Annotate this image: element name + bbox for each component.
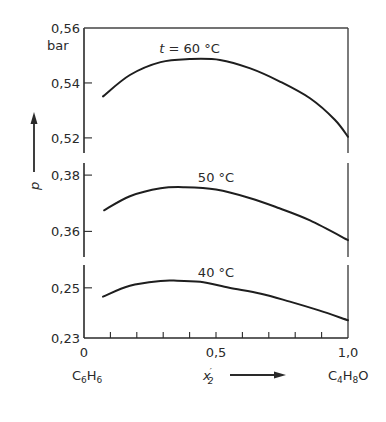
x-tick-label: 1,0 bbox=[338, 345, 359, 360]
y-tick-label-60C: 0,52 bbox=[51, 131, 80, 146]
x-axis-label: x′2 bbox=[202, 367, 286, 386]
x-right-component-label: C4H8O bbox=[328, 368, 369, 385]
series-label-60C: t = 60 °C bbox=[159, 41, 220, 56]
y-axis-title: p bbox=[27, 182, 42, 191]
series-label-50C: 50 °C bbox=[198, 170, 234, 185]
y-tick-label-50C: 0,38 bbox=[51, 168, 80, 183]
curve-60C bbox=[103, 59, 348, 137]
y-tick-label-50C: 0,36 bbox=[51, 224, 80, 239]
y-axis-unit: bar bbox=[47, 38, 69, 53]
y-tick-label-40C: 0,25 bbox=[51, 281, 80, 296]
series-label-value: = 60 °C bbox=[164, 41, 219, 56]
x-left-component-label: C6H6 bbox=[72, 368, 103, 385]
x-tick-label: 0,5 bbox=[206, 345, 227, 360]
curve-40C bbox=[103, 280, 348, 320]
x-axis-title: x′2 bbox=[202, 367, 214, 386]
y-tick-label-40C: 0,23 bbox=[51, 331, 80, 346]
x-axis-arrow-head-icon bbox=[274, 372, 286, 379]
y-axis-arrow-head-icon bbox=[31, 112, 38, 124]
x-tick-label: 0 bbox=[80, 345, 88, 360]
vapor-pressure-chart: 0,560,540,52t = 60 °C0,380,3650 °C0,250,… bbox=[0, 0, 386, 422]
curve-50C bbox=[104, 187, 348, 240]
y-axis-label: p bbox=[27, 112, 42, 191]
y-tick-label-60C: 0,56 bbox=[51, 21, 80, 36]
series-label-40C: 40 °C bbox=[198, 265, 234, 280]
y-tick-label-60C: 0,54 bbox=[51, 76, 80, 91]
curves bbox=[103, 59, 348, 320]
